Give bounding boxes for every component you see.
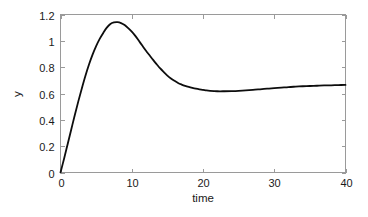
x-tick-label: 0: [58, 177, 64, 189]
y-tick-label: 0.6: [39, 89, 54, 101]
y-tick-label: 0.2: [39, 141, 54, 153]
x-axis-tick-labels: 010203040: [58, 177, 352, 189]
y-tick-label: 0.8: [39, 62, 54, 74]
x-tick-label: 10: [126, 177, 138, 189]
y-axis-title: y: [11, 91, 23, 97]
x-tick-label: 30: [268, 177, 280, 189]
x-tick-label: 40: [340, 177, 352, 189]
plot-area-background: [60, 14, 346, 173]
y-tick-label: 0.4: [39, 115, 54, 127]
figure-canvas: 010203040 00.20.40.60.811.2 time y: [0, 0, 368, 217]
y-tick-label: 1: [48, 36, 54, 48]
line-chart: 010203040 00.20.40.60.811.2 time y: [0, 0, 368, 217]
x-axis-title: time: [192, 192, 214, 204]
y-tick-label: 1.2: [39, 10, 54, 22]
y-tick-label: 0: [48, 168, 54, 180]
x-tick-label: 20: [197, 177, 209, 189]
y-axis-tick-labels: 00.20.40.60.811.2: [39, 10, 54, 180]
